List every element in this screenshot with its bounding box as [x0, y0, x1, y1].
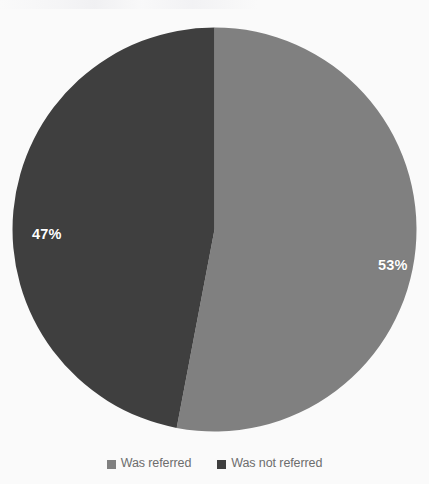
legend-label-was-not-referred: Was not referred [231, 456, 322, 470]
pie-chart-plot-area: 47% 53% [12, 27, 417, 432]
pie-slice-label-was-not-referred: 47% [32, 226, 62, 242]
legend-swatch-icon-was-not-referred [217, 460, 226, 469]
pie-chart-figure: 47% 53% Was referred Was not referred [0, 0, 429, 484]
legend-item-was-referred[interactable]: Was referred [107, 456, 192, 470]
legend-label-was-referred: Was referred [121, 456, 192, 470]
scan-artifact [0, 0, 429, 9]
pie-slice-label-was-referred: 53% [378, 257, 408, 273]
chart-legend: Was referred Was not referred [0, 456, 429, 470]
legend-item-was-not-referred[interactable]: Was not referred [217, 456, 322, 470]
legend-swatch-icon-was-referred [107, 460, 116, 469]
pie-chart-svg [12, 27, 417, 432]
